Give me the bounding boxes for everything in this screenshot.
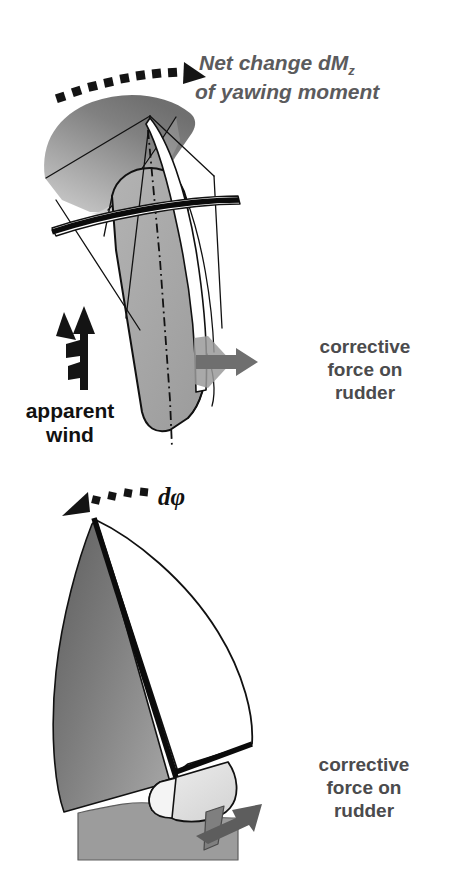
sailing-yacht-diagram: Net change dMz of yawing moment correcti… bbox=[0, 0, 455, 894]
figure-root: Net change dMz of yawing moment correcti… bbox=[0, 0, 455, 894]
side-rudder-force-line2: force on bbox=[327, 777, 402, 798]
plan-rudder-force-line3: rudder bbox=[335, 382, 396, 403]
apparent-wind-line1: apparent bbox=[26, 399, 115, 422]
plan-rudder-force-line2: force on bbox=[328, 359, 403, 380]
plan-rudder-force-line1: corrective bbox=[320, 336, 411, 357]
net-change-label-line2: of yawing moment bbox=[195, 80, 380, 103]
side-rudder-force-line3: rudder bbox=[334, 800, 395, 821]
side-rudder-force-line1: corrective bbox=[319, 754, 410, 775]
net-change-label-line1: Net change dMz bbox=[199, 51, 355, 78]
apparent-wind-line2: wind bbox=[45, 423, 94, 446]
heel-angle-label: dφ bbox=[158, 483, 185, 510]
